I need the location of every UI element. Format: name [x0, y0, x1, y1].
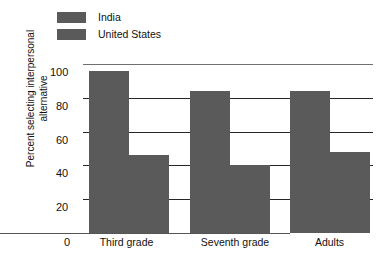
- bar-india-adults: [290, 91, 330, 233]
- y-axis-title-line-1: Percent selecting interpersonal: [25, 13, 38, 185]
- bar-united-states-third-grade: [129, 155, 169, 233]
- legend-label-united-states: United States: [98, 29, 161, 40]
- y-tick-label-100: 100: [50, 66, 84, 78]
- y-axis-title: Percent selecting interpersonal alternat…: [25, 13, 50, 185]
- y-tick-label-80: 80: [56, 100, 90, 112]
- y-tick-label-20: 20: [56, 201, 90, 213]
- x-axis-origin-label: 0: [64, 236, 70, 248]
- x-tick-label-seventh-grade: Seventh grade: [185, 236, 285, 248]
- bar-india-third-grade: [89, 71, 129, 233]
- y-tick-label-40: 40: [56, 167, 90, 179]
- legend-swatch-united-states: [57, 29, 86, 40]
- x-tick-label-third-grade: Third grade: [84, 236, 169, 248]
- legend-label-india: India: [98, 12, 121, 23]
- bar-india-seventh-grade: [190, 91, 230, 233]
- chart-legend: India United States: [57, 11, 161, 41]
- y-tick-label-60: 60: [56, 134, 90, 146]
- y-axis-title-line-2: alternative: [37, 13, 50, 185]
- x-tick-label-adults: Adults: [292, 236, 367, 248]
- bar-united-states-adults: [330, 152, 370, 233]
- legend-item-india: India: [57, 11, 161, 24]
- legend-swatch-india: [57, 12, 86, 23]
- bar-chart-figure: India United States Percent selecting in…: [0, 0, 382, 262]
- bar-united-states-seventh-grade: [230, 165, 270, 233]
- plot-area: 100 80 60 40 20: [83, 64, 373, 233]
- x-axis-line: [0, 233, 290, 234]
- legend-item-united-states: United States: [57, 28, 161, 41]
- gridline-100: [83, 64, 373, 65]
